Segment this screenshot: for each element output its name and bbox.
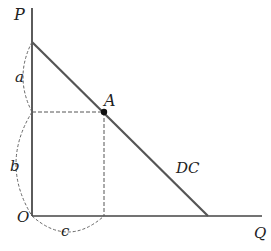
origin-label: O bbox=[17, 208, 29, 226]
curve-dc-label: DC bbox=[175, 159, 200, 177]
demand-curve-dc bbox=[32, 42, 208, 216]
y-axis-label: P bbox=[13, 5, 25, 24]
point-a-label: A bbox=[102, 91, 116, 110]
demand-diagram: P Q O A DC a b c bbox=[0, 0, 271, 251]
brace-a-label: a bbox=[15, 68, 24, 86]
brace-b-label: b bbox=[10, 157, 20, 175]
brace-c-label: c bbox=[61, 222, 70, 240]
x-axis-label: Q bbox=[254, 224, 266, 242]
brace-a bbox=[23, 42, 32, 112]
